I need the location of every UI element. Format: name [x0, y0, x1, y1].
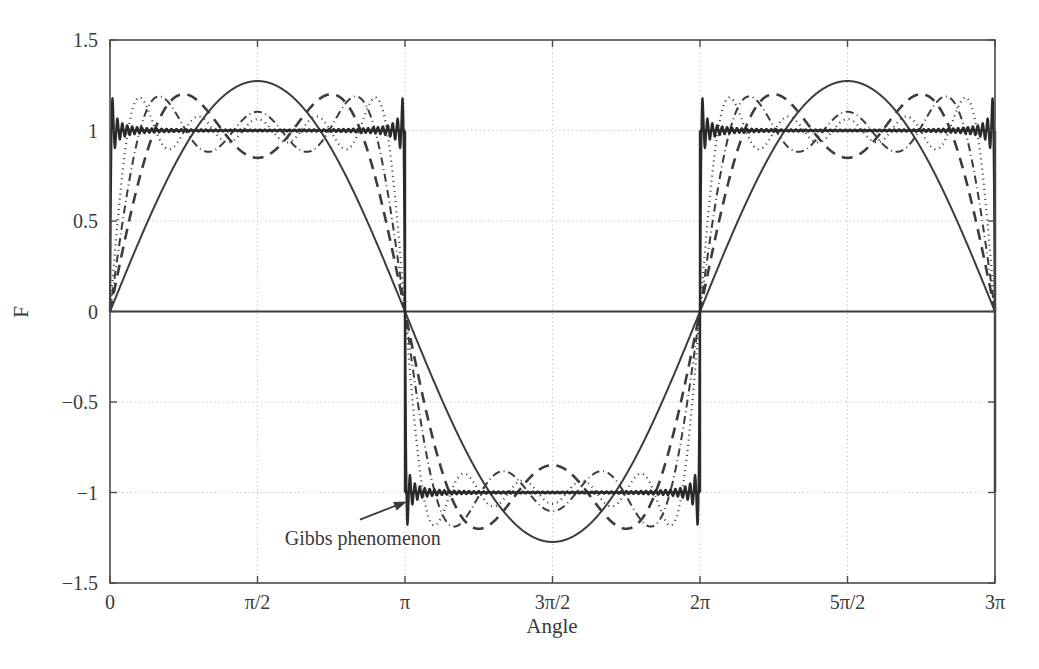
y-tick-label: 0 — [88, 301, 98, 323]
y-tick-label: 1.5 — [73, 29, 98, 51]
figure-container: 0π/2π3π/22π5π/23π −1.5−1−0.500.511.5 Gib… — [0, 0, 1039, 669]
x-axis-title: Angle — [526, 614, 577, 638]
x-tick-label: 3π — [985, 591, 1005, 613]
x-tick-label: 2π — [690, 591, 710, 613]
x-tick-label: π — [400, 591, 410, 613]
x-tick-label: 0 — [105, 591, 115, 613]
y-axis-title: F — [9, 306, 33, 318]
x-tick-label: 5π/2 — [830, 591, 866, 613]
x-tick-label: 3π/2 — [535, 591, 571, 613]
y-tick-label: −1 — [77, 482, 98, 504]
chart-background — [0, 0, 1039, 669]
y-tick-label: 0.5 — [73, 210, 98, 232]
x-tick-label: π/2 — [245, 591, 271, 613]
y-tick-label: 1 — [88, 120, 98, 142]
gibbs-annotation-label: Gibbs phenomenon — [285, 527, 441, 550]
y-tick-label: −0.5 — [62, 391, 98, 413]
fourier-square-wave-chart: 0π/2π3π/22π5π/23π −1.5−1−0.500.511.5 Gib… — [0, 0, 1039, 669]
y-tick-label: −1.5 — [62, 572, 98, 594]
